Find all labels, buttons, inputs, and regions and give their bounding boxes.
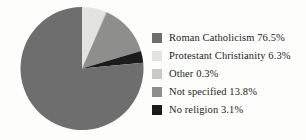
- chart-legend: Roman Catholicism 76.5%Protestant Christ…: [152, 29, 304, 119]
- legend-swatch-icon: [152, 105, 162, 115]
- legend-item-label: Protestant Christianity 6.3%: [169, 50, 291, 62]
- legend-item: No religion 3.1%: [152, 101, 304, 119]
- legend-swatch-icon: [152, 33, 162, 43]
- legend-item: Not specified 13.8%: [152, 83, 304, 101]
- legend-item-label: No religion 3.1%: [169, 104, 243, 116]
- pie-slice-group: [20, 7, 143, 130]
- legend-item-label: Roman Catholicism 76.5%: [169, 32, 285, 44]
- legend-item-label: Other 0.3%: [169, 68, 218, 80]
- legend-item: Other 0.3%: [152, 65, 304, 83]
- pie-plot-area: [20, 6, 146, 134]
- legend-swatch-icon: [152, 69, 162, 79]
- legend-swatch-icon: [152, 51, 162, 61]
- legend-item-label: Not specified 13.8%: [169, 86, 257, 98]
- legend-swatch-icon: [152, 87, 162, 97]
- legend-item: Roman Catholicism 76.5%: [152, 29, 304, 47]
- pie-svg: [20, 6, 146, 134]
- pie-chart-figure: Roman Catholicism 76.5%Protestant Christ…: [0, 0, 306, 140]
- legend-item: Protestant Christianity 6.3%: [152, 47, 304, 65]
